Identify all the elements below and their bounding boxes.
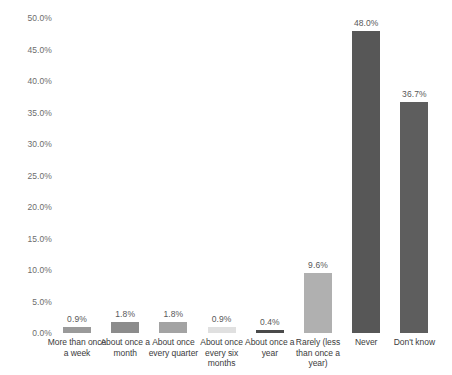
bar[interactable] xyxy=(304,273,332,333)
bar[interactable] xyxy=(256,330,284,333)
bar-value-label: 0.4% xyxy=(260,317,280,327)
bar-value-label: 9.6% xyxy=(308,260,328,270)
bar[interactable] xyxy=(159,322,187,333)
bar-value-label: 48.0% xyxy=(354,18,379,28)
bars-layer: 0.9%More than once a week1.8%About once … xyxy=(0,0,452,375)
bar[interactable] xyxy=(63,327,91,333)
bar-value-label: 0.9% xyxy=(67,314,87,324)
bar-value-label: 0.9% xyxy=(212,314,232,324)
bar-value-label: 1.8% xyxy=(164,309,184,319)
plot-area: 50.0%45.0%40.0%35.0%30.0%25.0%20.0%15.0%… xyxy=(0,0,452,375)
bar-value-label: 36.7% xyxy=(402,89,427,99)
bar[interactable] xyxy=(208,327,236,333)
bar[interactable] xyxy=(352,31,380,333)
bar[interactable] xyxy=(400,102,428,333)
bar[interactable] xyxy=(111,322,139,333)
bar-value-label: 1.8% xyxy=(115,309,135,319)
x-axis-category-label: Don't know xyxy=(384,337,444,348)
bar-group[interactable]: 36.7%Don't know xyxy=(384,0,444,375)
bar-chart: 50.0%45.0%40.0%35.0%30.0%25.0%20.0%15.0%… xyxy=(0,0,452,375)
